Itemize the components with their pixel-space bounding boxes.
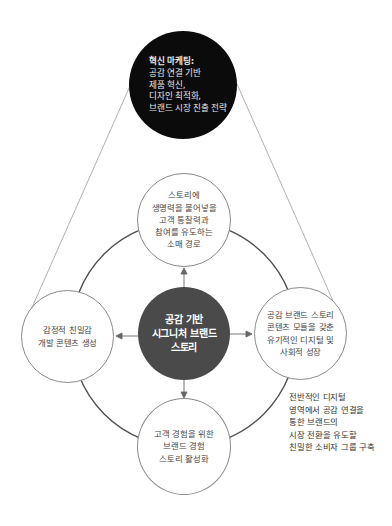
node-text-line: 제품 혁신, bbox=[149, 80, 185, 92]
node-text-line: 브랜드 시장 진출 전략 bbox=[149, 103, 227, 115]
innovation-marketing-node: 혁신 마케팅: 공감 연결 기반 제품 혁신, 디자인 최적화, 브랜드 시장 … bbox=[129, 31, 237, 139]
annotation-line: 영역에서 공감 연결을 bbox=[289, 404, 374, 417]
innovation-marketing-title: 혁신 마케팅: bbox=[149, 56, 194, 68]
node-text-line: 사회적 성장 bbox=[280, 346, 321, 358]
annotation-line: 통한 브랜드의 bbox=[289, 416, 374, 429]
annotation-line: 전반적인 디지털 bbox=[289, 391, 374, 404]
organic-growth-node: 공감 브랜드 스토리 콘텐츠 모듈을 갖춘 유기적인 디지털 및 사회적 성장 bbox=[254, 287, 347, 380]
node-text-line: 유기적인 디지털 및 bbox=[267, 334, 334, 346]
node-text-line: 시그니처 브랜드 bbox=[152, 327, 217, 341]
retail-path-node: 스토리에 생명력을 불어넣을 고객 통찰력과 참여를 유도하는 소매 경로 bbox=[137, 173, 231, 267]
annotation-line: 시장 전환을 유도할 bbox=[289, 429, 374, 442]
emotional-intimacy-node: 감정적 친밀감 개발 콘텐츠 생성 bbox=[21, 290, 114, 383]
connector-top-left bbox=[30, 86, 130, 312]
node-text-line: 감정적 친밀감 bbox=[43, 324, 92, 336]
arrow-up-head bbox=[181, 268, 187, 274]
node-text-line: 공감 연결 기반 bbox=[149, 68, 201, 80]
node-text-line: 브랜드 경험 bbox=[163, 440, 204, 452]
signature-brand-story-diagram: 혁신 마케팅: 공감 연결 기반 제품 혁신, 디자인 최적화, 브랜드 시장 … bbox=[0, 0, 392, 526]
experience-activation-node: 고객 경험을 위한 브랜드 경험 스토리 활성화 bbox=[137, 398, 231, 495]
node-text-line: 고객 통찰력과 bbox=[159, 214, 208, 226]
node-text-line: 공감 브랜드 스토리 bbox=[267, 309, 334, 321]
node-text-line: 스토리에 bbox=[168, 189, 199, 201]
node-text-line: 참여를 유도하는 bbox=[155, 226, 212, 238]
node-text-line: 소매 경로 bbox=[167, 238, 201, 250]
node-text-line: 개발 콘텐츠 생성 bbox=[38, 337, 98, 349]
connector-top-right bbox=[237, 84, 337, 310]
node-text-line: 콘텐츠 모듈을 갖춘 bbox=[267, 321, 334, 333]
node-text-line: 스토리 bbox=[171, 341, 197, 355]
consumer-group-annotation: 전반적인 디지털 영역에서 공감 연결을 통한 브랜드의 시장 전환을 유도할 … bbox=[289, 391, 374, 454]
node-text-line: 디자인 최적화, bbox=[149, 91, 201, 103]
node-text-line: 공감 기반 bbox=[165, 313, 203, 327]
node-text-line: 생명력을 불어넣을 bbox=[152, 202, 217, 214]
arrow-left-head bbox=[116, 333, 122, 339]
node-text-line: 고객 경험을 위한 bbox=[154, 428, 214, 440]
arrow-right-head bbox=[246, 331, 252, 337]
signature-brand-story-center-node: 공감 기반 시그니처 브랜드 스토리 bbox=[138, 287, 230, 380]
annotation-line: 친밀한 소비자 그룹 구축 bbox=[289, 441, 374, 454]
node-text-line: 스토리 활성화 bbox=[159, 453, 208, 465]
